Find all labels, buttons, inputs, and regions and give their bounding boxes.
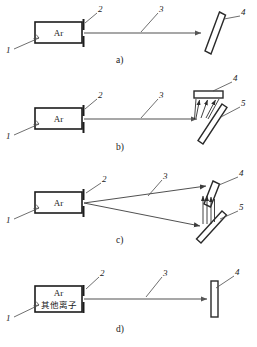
panel-d-label: d) (116, 324, 124, 335)
panel-c-callout-5: 5 (239, 202, 244, 212)
panel-b-ray-edge-left (195, 99, 197, 119)
panel-a-callout-4: 4 (241, 7, 246, 17)
panel-c-callout-3: 3 (162, 171, 168, 181)
panel-b-callout-3: 3 (158, 90, 164, 100)
panel-b-callout-1: 1 (6, 131, 11, 141)
panel-b-ray-1 (196, 100, 200, 118)
panel-a-callout-2: 2 (98, 4, 103, 14)
figure-container: Ar 1 2 3 4 a) Ar 1 2 3 (0, 0, 257, 347)
panel-b-ray-2 (201, 100, 208, 118)
panel-a-target-plate (205, 12, 226, 54)
panel-b-label: b) (116, 142, 124, 153)
panel-c-leader-3 (148, 180, 162, 196)
panel-a-label: a) (116, 55, 123, 66)
panel-c-callout-2: 2 (102, 174, 107, 184)
panel-a-leader-4 (224, 16, 240, 19)
panel-c-beam-upper (84, 186, 206, 203)
panel-b-source-label: Ar (54, 114, 64, 124)
panel-c-leader-2 (86, 183, 101, 193)
panel-d: Ar 其他离子 1 2 3 4 d) (6, 267, 240, 335)
panel-c-leader-4 (219, 177, 238, 185)
panel-a-leader-2 (85, 13, 97, 23)
panel-a-leader-3 (141, 13, 158, 32)
panel-b-detector (194, 91, 223, 98)
panel-b-leader-4 (213, 82, 232, 91)
panel-b: Ar 1 2 3 4 5 b) (6, 73, 246, 153)
panel-a-source-label: Ar (54, 28, 64, 38)
panel-a-callout-3: 3 (158, 4, 164, 14)
panel-c-plate-upper (204, 181, 220, 207)
panel-d-target-plate (211, 281, 218, 317)
panel-d-leader-3 (146, 277, 162, 297)
panel-b-callout-2: 2 (98, 90, 103, 100)
panel-c-label: c) (116, 235, 123, 246)
panel-d-source-sublabel: 其他离子 (41, 300, 77, 310)
panel-c-source-label: Ar (54, 198, 64, 208)
panel-c: Ar 1 2 3 4 5 c) (6, 168, 244, 246)
panel-a-callout-1: 1 (6, 45, 11, 55)
panel-a: Ar 1 2 3 4 a) (6, 4, 246, 66)
panel-b-leader-3 (141, 99, 158, 118)
panel-b-callout-5: 5 (241, 98, 246, 108)
panel-d-callout-2: 2 (100, 268, 105, 278)
schematic-svg: Ar 1 2 3 4 a) Ar 1 2 3 (0, 0, 257, 347)
panel-c-callout-4: 4 (239, 168, 244, 178)
panel-b-leader-2 (85, 99, 97, 109)
panel-c-callout-1: 1 (6, 215, 11, 225)
panel-d-source-label: Ar (54, 288, 64, 298)
panel-c-plate-lower (197, 211, 227, 243)
panel-d-callout-4: 4 (235, 267, 240, 277)
panel-b-callout-4: 4 (233, 73, 238, 83)
panel-d-callout-3: 3 (162, 268, 168, 278)
panel-d-leader-2 (86, 277, 99, 289)
panel-c-beam-lower (84, 203, 200, 226)
panel-d-callout-1: 1 (6, 313, 11, 323)
